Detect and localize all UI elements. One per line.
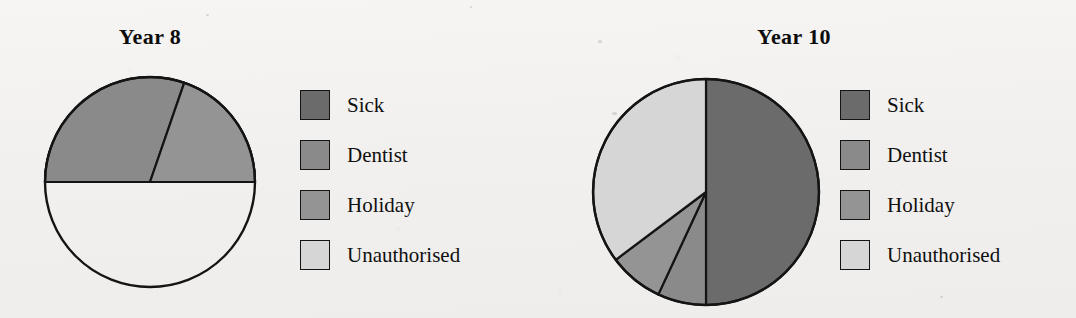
chart-block-year10: Year 10 Sick Dentist (538, 0, 1076, 318)
legend-item-unauthorised: Unauthorised (840, 230, 1000, 280)
legend-label-dentist: Dentist (347, 145, 408, 166)
legend-item-sick: Sick (840, 80, 1000, 130)
scanned-page: Year 8 Sick Dentist (0, 0, 1076, 318)
legend-swatch-dentist (300, 140, 330, 170)
legend-label-sick: Sick (347, 95, 384, 116)
legend-swatch-dentist (840, 140, 870, 170)
legend-item-holiday: Holiday (840, 180, 1000, 230)
legend-item-holiday: Holiday (300, 180, 460, 230)
legend-label-dentist: Dentist (887, 145, 948, 166)
legend-item-unauthorised: Unauthorised (300, 230, 460, 280)
legend-swatch-holiday (840, 190, 870, 220)
legend-label-sick: Sick (887, 95, 924, 116)
pie-slice-year10-sick (706, 79, 819, 305)
pie-chart-year10 (590, 76, 822, 308)
legend-swatch-holiday (300, 190, 330, 220)
legend-swatch-unauthorised (300, 240, 330, 270)
legend-year10: Sick Dentist Holiday Unauthorised (840, 80, 1000, 280)
legend-label-holiday: Holiday (347, 195, 415, 216)
chart-title-year8: Year 8 (0, 24, 300, 50)
legend-swatch-unauthorised (840, 240, 870, 270)
legend-label-unauthorised: Unauthorised (887, 245, 1000, 266)
legend-item-sick: Sick (300, 80, 460, 130)
chart-title-year10: Year 10 (644, 24, 944, 50)
legend-label-unauthorised: Unauthorised (347, 245, 460, 266)
legend-swatch-sick (840, 90, 870, 120)
legend-swatch-sick (300, 90, 330, 120)
chart-block-year8: Year 8 Sick Dentist (0, 0, 538, 318)
legend-year8: Sick Dentist Holiday Unauthorised (300, 80, 460, 280)
legend-item-dentist: Dentist (300, 130, 460, 180)
legend-item-dentist: Dentist (840, 130, 1000, 180)
legend-label-holiday: Holiday (887, 195, 955, 216)
pie-chart-year8 (42, 74, 258, 290)
